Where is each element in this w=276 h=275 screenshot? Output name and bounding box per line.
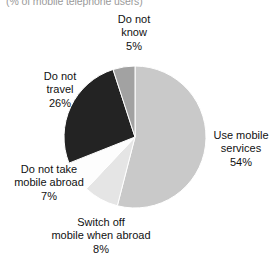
slice-label-line2: services [221, 142, 261, 154]
slice-label-line2: know [121, 26, 147, 38]
slice-label-line1: Do not take [21, 163, 77, 175]
pie-chart-figure: (% of mobile telephone users) Do not kno… [0, 0, 276, 275]
slice-value: 8% [37, 243, 165, 256]
slice-label-do-not-take-mobile-abroad: Do not take mobile abroad 7% [2, 163, 96, 203]
chart-subtitle: (% of mobile telephone users) [6, 0, 246, 7]
slice-label-line1: Use mobile [213, 129, 268, 141]
slice-label-line2: mobile when abroad [51, 229, 150, 241]
slice-value: 7% [2, 190, 96, 203]
slice-label-line1: Do not [44, 70, 76, 82]
slice-value: 5% [104, 40, 164, 53]
slice-label-line1: Switch off [77, 216, 125, 228]
slice-label-line2: travel [47, 83, 74, 95]
slice-label-line1: Do not [118, 13, 150, 25]
slice-label-switch-off-mobile-when-abroad: Switch off mobile when abroad 8% [37, 216, 165, 256]
slice-label-use-mobile-services: Use mobile services 54% [210, 129, 272, 169]
slice-label-do-not-travel: Do not travel 26% [26, 70, 94, 110]
slice-label-do-not-know: Do not know 5% [104, 13, 164, 53]
slice-value: 26% [26, 97, 94, 110]
slice-value: 54% [210, 156, 272, 169]
slice-label-line2: mobile abroad [14, 176, 84, 188]
